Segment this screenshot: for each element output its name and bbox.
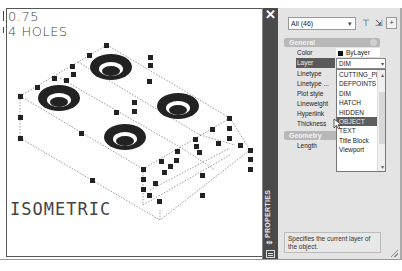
layer-option[interactable]: HATCH — [337, 98, 378, 107]
layer-option-highlighted[interactable]: OBJECT — [337, 117, 378, 126]
layer-dropdown[interactable]: DIM ▾ — [336, 58, 386, 69]
drawing-canvas[interactable]: 0.75 4 HOLES — [0, 0, 262, 271]
property-description: Specifies the current layer of the objec… — [284, 232, 381, 253]
frame-bottom-edge — [0, 259, 402, 260]
prop-label: Color — [297, 48, 334, 58]
prop-value[interactable]: ByLayer — [336, 48, 380, 58]
layer-dropdown-list[interactable]: CUTTING_PL... DEFPOINTS DIM HATCH HIDDEN… — [336, 69, 386, 172]
auto-hide-icon[interactable]: ⇹ — [266, 239, 275, 246]
section-general[interactable]: General — [284, 38, 380, 47]
color-swatch — [338, 51, 343, 56]
selection-grips — [18, 43, 253, 204]
resize-grip-icon[interactable] — [390, 249, 398, 257]
prop-label: Hyperlink — [297, 109, 334, 119]
layer-option[interactable]: HIDDEN — [337, 108, 378, 117]
properties-palette: ✕ PROPERTIES ⇹ All (46) ▾ ⊤ ⇲ + General … — [262, 8, 402, 259]
chevron-down-icon[interactable]: ▾ — [381, 59, 384, 69]
layer-option[interactable]: DEFPOINTS — [337, 79, 378, 88]
toggle-pickadd-icon[interactable]: ⊤ — [360, 17, 371, 29]
scroll-thumb[interactable] — [379, 92, 385, 144]
isometric-view-label: ISOMETRIC — [10, 199, 111, 219]
prop-label: Length — [297, 141, 334, 151]
select-objects-icon[interactable]: ⇲ — [373, 17, 384, 29]
palette-properties-icon[interactable] — [266, 250, 275, 258]
hole-features — [38, 54, 199, 150]
layer-option[interactable]: CUTTING_PL... — [337, 70, 378, 79]
prop-label: Lineweight — [297, 99, 334, 109]
prop-label: Linetype — [297, 69, 334, 79]
chevron-down-icon[interactable]: ▾ — [345, 18, 355, 29]
palette-title-bar[interactable]: ✕ PROPERTIES ⇹ — [263, 8, 278, 259]
close-icon[interactable]: ✕ — [265, 9, 276, 21]
prop-label: Linetype ... — [297, 79, 334, 89]
prop-label: Layer — [296, 58, 335, 68]
prop-label: Plot style — [297, 89, 334, 99]
isometric-block-drawing[interactable] — [0, 0, 262, 271]
collapse-icon[interactable] — [370, 39, 377, 46]
quick-select-icon[interactable]: + — [386, 17, 397, 29]
prop-row-color[interactable]: Color ByLayer — [284, 48, 380, 58]
dropdown-scrollbar[interactable]: ▴ ▾ — [377, 70, 385, 171]
section-general-label: General — [289, 39, 315, 46]
prop-label: Thickness — [297, 119, 334, 129]
mouse-cursor-icon — [333, 118, 343, 130]
layer-option[interactable]: Title Block — [337, 136, 378, 145]
palette-body: All (46) ▾ ⊤ ⇲ + General Color ByLayer L… — [278, 8, 402, 259]
scroll-up-icon[interactable]: ▴ — [378, 71, 386, 78]
layer-option[interactable]: Viewport — [337, 145, 378, 154]
palette-title: PROPERTIES — [264, 188, 277, 240]
section-geometry-label: Geometry — [289, 132, 322, 139]
layer-option[interactable]: DIM — [337, 89, 378, 98]
color-value: ByLayer — [346, 49, 370, 56]
layer-option[interactable]: TEXT — [337, 126, 378, 135]
scroll-down-icon[interactable]: ▾ — [378, 163, 386, 170]
selection-filter-dropdown[interactable]: All (46) ▾ — [288, 17, 356, 30]
layer-current-value: DIM — [339, 60, 351, 67]
selection-filter-value: All (46) — [291, 20, 313, 27]
